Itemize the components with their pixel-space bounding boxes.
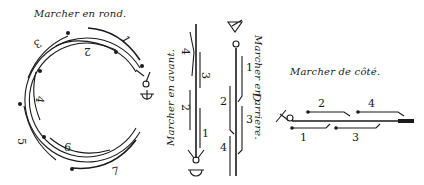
caption-forward-walk: Marcher en avant.	[165, 36, 176, 160]
backward-step-4: 4	[220, 142, 227, 153]
round-step-2: 2	[84, 46, 91, 57]
step-lines-drawing	[0, 0, 424, 185]
backward-step-3: 3	[246, 114, 253, 125]
forward-step-3: 3	[200, 72, 211, 79]
round-step-5: 5	[16, 138, 27, 145]
forward-step-1: 1	[202, 128, 209, 139]
side-step-2: 2	[318, 98, 325, 109]
forward-step-4: 4	[180, 48, 191, 55]
backward-walk-diagram	[228, 20, 242, 176]
dance-steps-plate: Marcher en rond. Marcher en avant. March…	[0, 0, 424, 185]
side-step-3: 3	[352, 132, 359, 143]
backward-step-2: 2	[220, 96, 227, 107]
side-step-4: 4	[368, 98, 375, 109]
backward-step-1: 1	[246, 62, 253, 73]
sideways-walk-diagram	[276, 110, 414, 130]
side-step-1: 1	[300, 132, 307, 143]
stray-mark-d: D	[251, 93, 262, 102]
forward-step-2: 2	[180, 104, 191, 111]
caption-sideways-walk: Marcher de côté.	[290, 66, 380, 77]
caption-round-walk: Marcher en rond.	[34, 8, 126, 19]
forward-walk-diagram	[188, 24, 204, 176]
caption-backward-walk: Marcher en arriere.	[253, 26, 264, 150]
